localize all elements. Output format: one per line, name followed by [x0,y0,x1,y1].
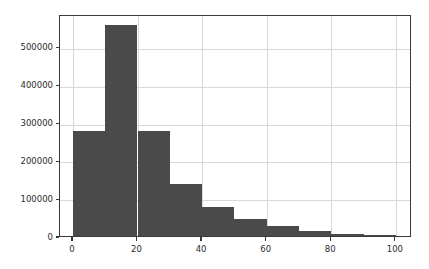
plot-area [59,15,411,237]
y-tick-label: 300000 [21,119,53,128]
x-tick-mark [265,237,266,241]
x-tick-mark [136,237,137,241]
x-tick-label: 0 [52,245,92,254]
x-tick-mark [330,237,331,241]
histogram-bar [170,184,202,236]
histogram-bar [234,219,266,236]
x-tick-label: 20 [117,245,157,254]
x-tick-label: 60 [246,245,286,254]
y-tick-label: 200000 [21,157,53,166]
histogram-bar [299,231,331,236]
x-tick-mark [71,237,72,241]
x-tick-label: 100 [375,245,415,254]
histogram-bar [331,234,363,236]
bar-series [60,16,410,236]
histogram-bar [364,235,396,236]
histogram-figure: 0100000200000300000400000500000 02040608… [0,0,429,269]
x-tick-mark [394,237,395,241]
x-tick-mark [200,237,201,241]
x-tick-label: 40 [181,245,221,254]
y-tick-label: 400000 [21,81,53,90]
x-tick-label: 80 [310,245,350,254]
y-tick-label: 100000 [21,195,53,204]
histogram-bar [105,25,137,236]
histogram-bar [73,131,105,236]
histogram-bar [138,131,170,236]
histogram-bar [267,226,299,236]
y-tick-label: 500000 [21,43,53,52]
histogram-bar [202,207,234,236]
y-tick-label: 0 [48,233,53,242]
